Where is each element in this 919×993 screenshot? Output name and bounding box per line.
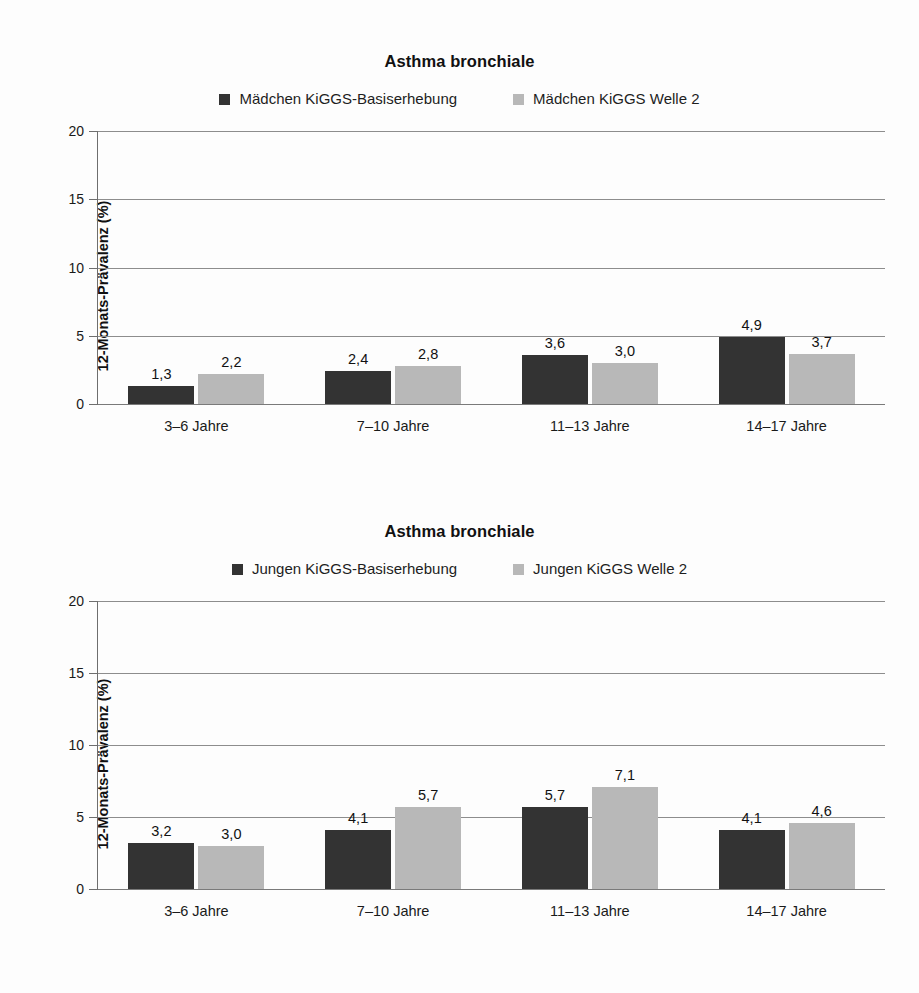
legend-label: Mädchen KiGGS-Basiserhebung [239,90,457,107]
y-axis-tick-label: 15 [68,665,84,681]
y-axis-tick [89,673,98,674]
bar-holder: 4,1 [719,601,785,889]
bar-wave2: 2,2 [198,374,264,404]
legend-item-baseline: Jungen KiGGS-Basiserhebung [232,560,457,577]
bar-group: 3,2 3,0 3–6 Jahre [98,601,295,889]
bar-holder: 2,8 [395,131,461,404]
bar-holder: 4,1 [325,601,391,889]
y-axis-tick-label: 5 [76,809,84,825]
bar-group: 5,7 7,1 11–13 Jahre [492,601,689,889]
y-axis-tick-label: 15 [68,191,84,207]
y-axis-tick-label: 20 [68,123,84,139]
y-axis-tick [89,404,98,405]
bar-holder: 2,4 [325,131,391,404]
bar-value-label: 2,4 [348,351,368,367]
bar-baseline: 1,3 [128,386,194,404]
legend-label: Jungen KiGGS Welle 2 [533,560,687,577]
bar-holder: 5,7 [395,601,461,889]
bar-holder: 2,2 [198,131,264,404]
legend-item-baseline: Mädchen KiGGS-Basiserhebung [219,90,457,107]
bar-value-label: 4,6 [812,803,832,819]
y-axis-tick [89,268,98,269]
bar-group: 2,4 2,8 7–10 Jahre [295,131,492,404]
bar-holder: 4,6 [789,601,855,889]
y-axis-tick [89,745,98,746]
bar-baseline: 5,7 [522,807,588,889]
bar-holder: 3,2 [128,601,194,889]
figure-page: Asthma bronchiale Mädchen KiGGS-Basiserh… [0,0,919,993]
bar-holder: 5,7 [522,601,588,889]
x-axis-tick-label: 14–17 Jahre [746,903,827,919]
legend-label: Jungen KiGGS-Basiserhebung [252,560,457,577]
y-axis-tick-label: 10 [68,260,84,276]
bar-holder: 4,9 [719,131,785,404]
y-axis-tick [89,889,98,890]
legend-item-wave2: Mädchen KiGGS Welle 2 [513,90,699,107]
plot-area: 05101520 3,2 3,0 3–6 Jah [97,601,885,890]
bar-value-label: 7,1 [615,767,635,783]
y-axis-tick [89,601,98,602]
bar-wave2: 5,7 [395,807,461,889]
bar-group: 4,9 3,7 14–17 Jahre [688,131,885,404]
y-axis-tick-label: 0 [76,396,84,412]
bar-wave2: 4,6 [789,823,855,889]
x-axis-tick-label: 3–6 Jahre [164,418,229,434]
bar-group: 3,6 3,0 11–13 Jahre [492,131,689,404]
legend-swatch-icon [513,564,524,575]
bar-holder: 1,3 [128,131,194,404]
legend-item-wave2: Jungen KiGGS Welle 2 [513,560,687,577]
x-axis-tick-label: 7–10 Jahre [357,903,430,919]
bar-groups: 1,3 2,2 3–6 Jahre 2,4 [98,131,885,404]
bar-groups: 3,2 3,0 3–6 Jahre 4,1 [98,601,885,889]
bar-wave2: 2,8 [395,366,461,404]
bar-holder: 3,0 [198,601,264,889]
y-axis-tick-label: 5 [76,328,84,344]
bar-baseline: 4,1 [719,830,785,889]
chart-title: Asthma bronchiale [0,522,919,541]
y-axis-tick [89,131,98,132]
legend-label: Mädchen KiGGS Welle 2 [533,90,699,107]
plot-area-wrapper: 12-Monats-Prävalenz (%) 05101520 1,3 2,2 [0,121,919,451]
bar-value-label: 3,0 [221,826,241,842]
bar-value-label: 2,8 [418,346,438,362]
chart-legend: Mädchen KiGGS-Basiserhebung Mädchen KiGG… [0,90,919,107]
bar-baseline: 3,2 [128,843,194,889]
legend-swatch-icon [219,94,230,105]
bar-value-label: 1,3 [151,366,171,382]
bar-holder: 3,7 [789,131,855,404]
x-axis-tick-label: 11–13 Jahre [550,418,630,434]
bar-value-label: 4,1 [742,810,762,826]
y-axis-tick [89,817,98,818]
chart-asthma-jungen: Asthma bronchiale Jungen KiGGS-Basiserhe… [0,500,919,993]
y-axis-tick [89,199,98,200]
y-axis-tick-label: 10 [68,737,84,753]
bar-holder: 7,1 [592,601,658,889]
plot-area-wrapper: 12-Monats-Prävalenz (%) 05101520 3,2 3,0 [0,591,919,936]
bar-value-label: 3,6 [545,335,565,351]
bar-wave2: 3,0 [198,846,264,889]
bar-group: 4,1 5,7 7–10 Jahre [295,601,492,889]
bar-value-label: 3,2 [151,823,171,839]
x-axis-tick-label: 14–17 Jahre [746,418,827,434]
bar-value-label: 5,7 [418,787,438,803]
bar-wave2: 7,1 [592,787,658,889]
y-axis-tick-label: 0 [76,881,84,897]
bar-value-label: 4,1 [348,810,368,826]
x-axis-tick-label: 3–6 Jahre [164,903,229,919]
x-axis-tick-label: 7–10 Jahre [357,418,430,434]
bar-value-label: 4,9 [742,317,762,333]
bar-baseline: 4,1 [325,830,391,889]
bar-holder: 3,6 [522,131,588,404]
legend-swatch-icon [232,564,243,575]
bar-value-label: 3,7 [812,334,832,350]
bar-value-label: 2,2 [221,354,241,370]
bar-baseline: 3,6 [522,355,588,404]
bar-holder: 3,0 [592,131,658,404]
chart-title: Asthma bronchiale [0,52,919,71]
legend-swatch-icon [513,94,524,105]
y-axis-tick [89,336,98,337]
y-axis-tick-label: 20 [68,593,84,609]
bar-baseline: 4,9 [719,337,785,404]
plot-area: 05101520 1,3 2,2 3–6 Jah [97,131,885,405]
bar-group: 4,1 4,6 14–17 Jahre [688,601,885,889]
